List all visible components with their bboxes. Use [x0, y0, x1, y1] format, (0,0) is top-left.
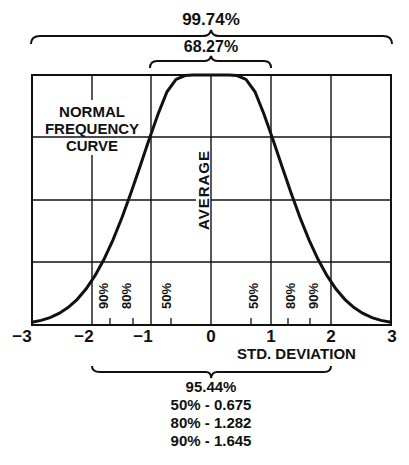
mark-90-left: 90% [96, 283, 111, 309]
x-axis-label: STD. DEVIATION [237, 345, 356, 362]
title-line-3: CURVE [36, 137, 148, 154]
bottom-legend: 95.44% 50% - 0.675 80% - 1.282 90% - 1.6… [171, 378, 252, 450]
tick-2: 2 [326, 327, 335, 347]
title-line-1: NORMAL [36, 103, 148, 120]
mark-50-right: 50% [246, 283, 261, 309]
tick-3: 3 [387, 327, 396, 347]
tick-neg1: −1 [133, 327, 152, 347]
legend-row-90: 90% - 1.645 [171, 432, 252, 450]
title-line-2: FREQUENCY [36, 120, 148, 137]
mark-80-left: 80% [119, 283, 134, 309]
percent-ticks [110, 318, 310, 325]
tick-neg3: −3 [12, 327, 31, 347]
chart-title: NORMAL FREQUENCY CURVE [36, 103, 148, 154]
label-68-27: 68.27% [184, 38, 238, 56]
brace-68-27 [150, 56, 271, 68]
label-95-44: 95.44% [171, 378, 252, 396]
mark-80-right: 80% [283, 283, 298, 309]
average-label: AVERAGE [195, 150, 212, 230]
tick-neg2: −2 [74, 327, 93, 347]
tick-0: 0 [206, 327, 215, 347]
mark-90-right: 90% [306, 283, 321, 309]
mark-50-left: 50% [159, 283, 174, 309]
legend-row-80: 80% - 1.282 [171, 414, 252, 432]
tick-1: 1 [266, 327, 275, 347]
label-99-74: 99.74% [182, 10, 240, 30]
brace-95-44 [92, 366, 331, 378]
legend-row-50: 50% - 0.675 [171, 396, 252, 414]
